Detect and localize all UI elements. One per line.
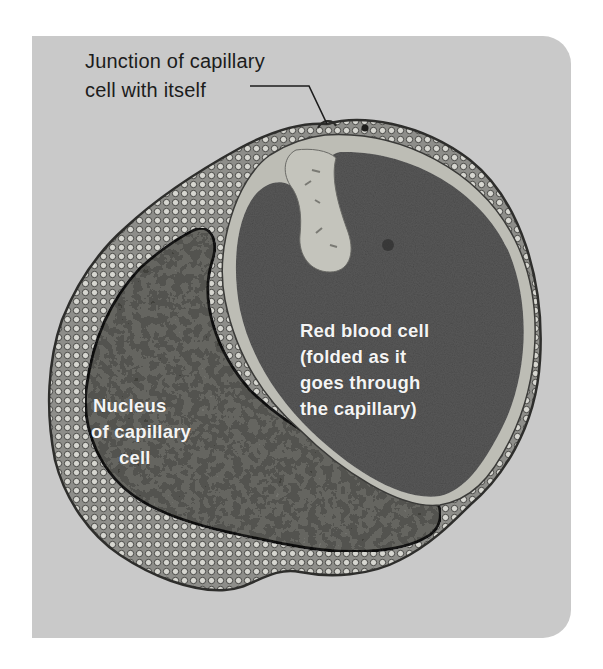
junction-label-line-1: Junction of capillary [85, 47, 265, 76]
rbc-label-line-2: (folded as it [300, 344, 429, 370]
nucleus-label-line-3: cell [119, 445, 191, 471]
junction-label: Junction of capillary cell with itself [85, 47, 265, 105]
red-blood-cell-label: Red blood cell (folded as it goes throug… [300, 318, 429, 422]
nucleus-label-line-2: of capillary [91, 419, 191, 445]
rbc-label-line-1: Red blood cell [300, 318, 429, 344]
junction-label-line-2: cell with itself [85, 76, 265, 105]
nucleus-label: Nucleus of capillary cell [93, 393, 191, 471]
rbc-label-line-4: the capillary) [300, 396, 429, 422]
nucleus-label-line-1: Nucleus [93, 393, 191, 419]
rbc-label-line-3: goes through [300, 370, 429, 396]
